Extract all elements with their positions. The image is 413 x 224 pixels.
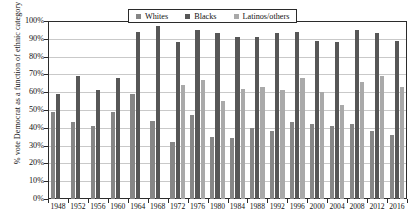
bar-whites	[270, 131, 274, 199]
legend-item[interactable]: Blacks	[185, 12, 216, 21]
bar-group	[188, 21, 208, 199]
legend-swatch-icon	[136, 14, 141, 19]
x-axis-tick-mark	[188, 199, 189, 203]
x-axis-tick-mark	[247, 199, 248, 203]
legend-label: Latinos/others	[243, 12, 290, 21]
bar-group	[128, 21, 148, 199]
x-axis-tick-label: 1964	[128, 202, 148, 218]
bar-group	[227, 21, 247, 199]
y-axis-tick-label: 100%	[8, 17, 44, 25]
x-axis-tick-mark	[128, 199, 129, 203]
bar-latinos	[280, 90, 284, 199]
x-axis-tick-mark	[267, 199, 268, 203]
x-axis-tick-mark	[287, 199, 288, 203]
x-axis-tick-mark	[367, 199, 368, 203]
x-axis-tick-label: 1992	[267, 202, 287, 218]
legend-swatch-icon	[234, 14, 239, 19]
bar-blacks	[156, 26, 160, 199]
bar-blacks	[136, 32, 140, 199]
bar-group	[208, 21, 228, 199]
x-axis-tick-label: 1980	[208, 202, 228, 218]
y-axis-tick-mark	[44, 57, 48, 58]
bar-whites	[390, 135, 394, 199]
bar-group	[168, 21, 188, 199]
bar-group	[307, 21, 327, 199]
bar-latinos	[340, 105, 344, 199]
bar-group	[267, 21, 287, 199]
y-axis-tick-label: 0%	[8, 195, 44, 203]
legend-label: Whites	[145, 12, 168, 21]
y-axis-tick-label: 50%	[8, 106, 44, 114]
x-axis-tick-label: 2008	[347, 202, 367, 218]
x-axis-tick-label: 1956	[88, 202, 108, 218]
x-axis-tick-label: 2004	[327, 202, 347, 218]
bar-blacks	[275, 33, 279, 199]
bar-blacks	[56, 94, 60, 199]
y-axis-tick-mark	[44, 181, 48, 182]
bar-latinos	[181, 85, 185, 199]
bar-group	[367, 21, 387, 199]
chart-legend: WhitesBlacksLatinos/others	[128, 9, 297, 23]
x-axis-tick-label: 1948	[48, 202, 68, 218]
legend-item[interactable]: Whites	[136, 12, 168, 21]
bar-whites	[330, 126, 334, 199]
bar-blacks	[235, 37, 239, 199]
y-axis-tick-mark	[44, 92, 48, 93]
bar-latinos	[360, 82, 364, 199]
x-axis-tick-label: 1984	[227, 202, 247, 218]
y-axis-tick-label: 80%	[8, 53, 44, 61]
y-axis-tick-mark	[44, 110, 48, 111]
bar-latinos	[201, 80, 205, 199]
bar-whites	[51, 112, 55, 199]
bar-blacks	[395, 41, 399, 199]
bar-blacks	[116, 78, 120, 199]
y-axis-tick-label: 90%	[8, 35, 44, 43]
bar-latinos	[400, 87, 404, 199]
x-axis-tick-label: 1952	[68, 202, 88, 218]
bar-blacks	[375, 33, 379, 199]
bar-latinos	[320, 92, 324, 199]
bar-latinos	[241, 89, 245, 199]
x-axis-tick-mark	[307, 199, 308, 203]
bar-whites	[350, 124, 354, 199]
x-axis-tick-mark	[387, 199, 388, 203]
bar-whites	[370, 131, 374, 199]
bar-whites	[230, 138, 234, 199]
bar-whites	[150, 121, 154, 199]
bar-group	[387, 21, 407, 199]
bar-group	[247, 21, 267, 199]
y-axis-tick-label: 10%	[8, 177, 44, 185]
x-axis-tick-label: 1988	[247, 202, 267, 218]
bar-whites	[250, 128, 254, 199]
bar-latinos	[300, 78, 304, 199]
x-axis-tick-mark	[168, 199, 169, 203]
bar-group	[148, 21, 168, 199]
bar-blacks	[255, 37, 259, 199]
x-axis-tick-label: 1960	[108, 202, 128, 218]
bar-whites	[290, 122, 294, 199]
x-axis-tick-label: 2012	[367, 202, 387, 218]
bar-blacks	[76, 76, 80, 199]
bar-group	[287, 21, 307, 199]
legend-item[interactable]: Latinos/others	[234, 12, 290, 21]
bar-chart: % vote Democrat as a function of ethnic …	[0, 0, 413, 224]
y-axis-tick-mark	[44, 74, 48, 75]
bar-blacks	[195, 30, 199, 199]
bar-whites	[310, 124, 314, 199]
x-axis-tick-mark	[228, 199, 229, 203]
x-axis-tick-mark	[148, 199, 149, 203]
bar-latinos	[380, 76, 384, 199]
x-axis-tick-mark	[407, 199, 408, 203]
x-axis-tick-label: 1976	[188, 202, 208, 218]
bar-group	[48, 21, 68, 199]
bar-whites	[130, 94, 134, 199]
x-axis-tick-mark	[48, 199, 49, 203]
y-axis-tick-mark	[44, 163, 48, 164]
bar-whites	[111, 112, 115, 199]
legend-label: Blacks	[194, 12, 216, 21]
x-axis-tick-labels: 1948195219561960196419681972197619801984…	[48, 202, 407, 218]
x-axis-tick-mark	[327, 199, 328, 203]
bar-group	[68, 21, 88, 199]
bar-groups	[48, 21, 407, 199]
y-axis-tick-mark	[44, 21, 48, 22]
